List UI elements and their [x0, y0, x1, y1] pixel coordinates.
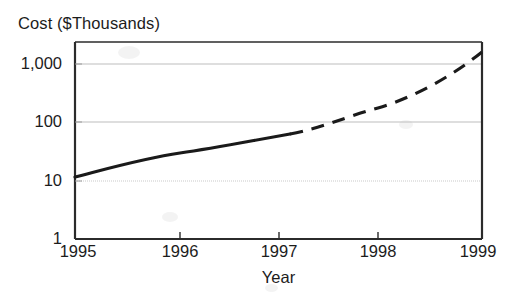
x-tick-label: 1996	[162, 243, 199, 260]
x-axis-title-row: Year	[0, 268, 521, 287]
x-tick-label: 1995	[60, 243, 97, 260]
y-tick-label: 10	[44, 172, 62, 189]
plot-frame	[75, 42, 482, 239]
x-tick-label: 1997	[261, 243, 298, 260]
cost-vs-year-line-chart: Cost ($Thousands)	[0, 0, 521, 299]
x-tick-label: 1999	[460, 243, 497, 260]
gridlines	[75, 64, 482, 181]
series-cost-actual	[75, 134, 290, 177]
x-tick-marks	[75, 232, 482, 239]
y-tick-label: 1,000	[21, 55, 62, 72]
x-tick-label: 1998	[360, 243, 397, 260]
x-axis-title: Year	[262, 268, 295, 286]
y-tick-label: 100	[34, 113, 62, 130]
